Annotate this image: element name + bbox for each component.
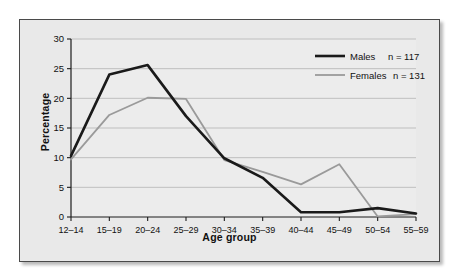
y-tick-label: 30 [53, 33, 64, 44]
legend-n-females: n = 131 [393, 70, 425, 81]
y-tick-label: 25 [53, 63, 64, 74]
y-tick-label: 5 [59, 182, 64, 193]
plot-area: 051015202530 12–1415–1920–2425–2930–3435… [20, 20, 439, 261]
y-tick-label: 20 [53, 93, 64, 104]
legend-label-females: Females [350, 70, 387, 81]
line-chart-svg: 051015202530 12–1415–1920–2425–2930–3435… [20, 20, 438, 260]
y-axis-title: Percentage [39, 77, 51, 167]
legend-n-males: n = 117 [388, 51, 419, 62]
y-tick-label: 15 [53, 122, 64, 133]
y-tick-label: 0 [59, 211, 64, 222]
x-axis-title: Age group [20, 231, 439, 243]
y-tick-group: 051015202530 [53, 33, 71, 222]
chart-figure: 051015202530 12–1415–1920–2425–2930–3435… [19, 19, 440, 262]
y-tick-label: 10 [53, 152, 64, 163]
legend-label-males: Males [350, 51, 376, 62]
